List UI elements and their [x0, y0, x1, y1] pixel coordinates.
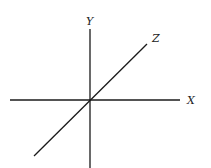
- z-axis-label: Z: [151, 32, 160, 45]
- labels-group: X Y Z: [86, 15, 196, 107]
- coordinate-axes-diagram: X Y Z: [0, 0, 211, 168]
- y-axis-label: Y: [86, 15, 95, 28]
- axes-group: [10, 29, 180, 168]
- x-axis-label: X: [186, 94, 196, 107]
